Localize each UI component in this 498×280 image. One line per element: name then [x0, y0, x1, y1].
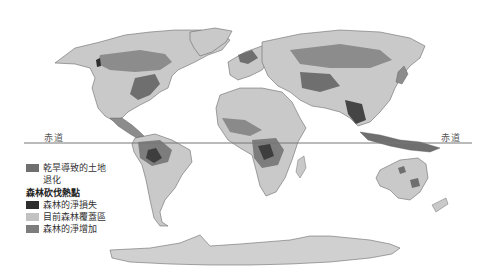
map-legend: 乾旱導致的土地 退化 森林砍伐熱點 森林的淨損失 目前森林覆蓋區 森林的淨增加: [26, 162, 106, 235]
north-america: [55, 28, 232, 140]
oceania: [376, 158, 448, 212]
equator-label-right: 赤道: [441, 131, 461, 144]
equator-label-left: 赤道: [44, 131, 64, 144]
legend-swatch-gain: [26, 225, 39, 233]
legend-item-net-forest-loss: 森林的淨損失: [26, 199, 106, 211]
legend-item-net-forest-gain: 森林的淨增加: [26, 223, 106, 235]
legend-swatch-dryland: [26, 164, 39, 172]
antarctica: [110, 235, 400, 265]
legend-section-title: 森林砍伐熱點: [26, 187, 106, 199]
legend-swatch-cover: [26, 213, 39, 221]
legend-label: 目前森林覆蓋區: [43, 211, 106, 223]
legend-item-current-forest-cover: 目前森林覆蓋區: [26, 211, 106, 223]
legend-swatch-loss: [26, 201, 39, 209]
legend-item-dryland-degradation: 乾旱導致的土地: [26, 162, 106, 174]
legend-label: 退化: [43, 174, 61, 186]
legend-label: 森林的淨損失: [43, 199, 97, 211]
legend-label: 森林的淨增加: [43, 223, 97, 235]
world-map: [0, 0, 498, 280]
south-america: [132, 134, 192, 226]
legend-label: 乾旱導致的土地: [43, 162, 106, 174]
legend-item-dryland-degradation-line2: 退化: [26, 174, 106, 186]
